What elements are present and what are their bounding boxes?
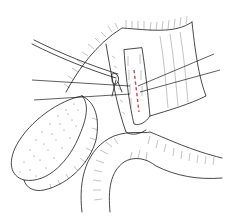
incision-line [134, 70, 139, 112]
gallbladder [11, 96, 98, 191]
cystic-duct-clamp [32, 40, 122, 96]
duodenum [81, 132, 222, 212]
surgical-illustration [0, 0, 233, 218]
